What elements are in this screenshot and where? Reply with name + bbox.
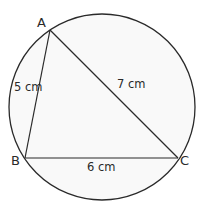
side-length-bc: 6 cm — [87, 160, 116, 174]
circumscribed-triangle-diagram: A B C 5 cm 7 cm 6 cm — [0, 0, 200, 205]
side-length-ab: 5 cm — [14, 80, 43, 94]
side-length-ac: 7 cm — [117, 77, 146, 91]
vertex-label-c: C — [180, 153, 189, 168]
vertex-label-b: B — [11, 153, 20, 168]
vertex-label-a: A — [37, 15, 46, 30]
